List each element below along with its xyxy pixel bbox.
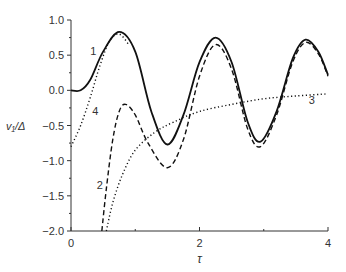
x-axis-label: τ <box>197 252 203 266</box>
line-chart: 1.00.50.0−0.5−1.0−1.5−2.0024τv₁/Δ1234 <box>0 0 346 272</box>
y-tick-label: −1.0 <box>42 155 64 167</box>
series-2-line <box>102 42 328 231</box>
series-1-line <box>71 32 328 145</box>
y-tick-label: −0.5 <box>42 120 64 132</box>
y-tick-label: −2.0 <box>42 225 64 237</box>
chart-container: 1.00.50.0−0.5−1.0−1.5−2.0024τv₁/Δ1234 <box>0 0 346 272</box>
y-tick-label: 0.0 <box>49 84 64 96</box>
x-tick-label: 4 <box>325 237 331 249</box>
y-tick-label: 1.0 <box>49 14 64 26</box>
series-3-line <box>106 94 328 231</box>
x-tick-label: 0 <box>68 237 74 249</box>
y-tick-label: −1.5 <box>42 190 64 202</box>
y-axis-label: v₁/Δ <box>6 120 25 132</box>
y-tick-label: 0.5 <box>49 49 64 61</box>
x-tick-label: 2 <box>196 237 202 249</box>
curve-label-3: 3 <box>309 94 315 106</box>
curve-label-1: 1 <box>90 45 96 57</box>
curve-label-2: 2 <box>97 179 103 191</box>
curve-label-4: 4 <box>92 105 98 117</box>
